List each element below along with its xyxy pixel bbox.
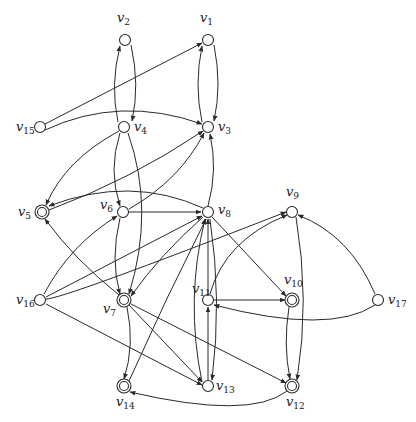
node-label-subscript: 6 (107, 204, 113, 214)
edge-v2-to-v4 (131, 45, 136, 121)
edge-v16-to-v9 (46, 212, 286, 299)
node-label-v16: v16 (16, 292, 35, 309)
inner-ring (120, 382, 129, 391)
state-circle (287, 207, 298, 218)
state-circle (119, 122, 130, 133)
edge-v10-to-v12 (286, 307, 290, 379)
edge-v17-to-v9 (298, 215, 375, 294)
node-v16 (35, 295, 46, 306)
node-v10 (285, 293, 299, 307)
node-label-subscript: 7 (110, 308, 116, 318)
node-label-v7: v7 (103, 301, 116, 318)
state-circle (118, 207, 129, 218)
node-label-v2: v2 (117, 10, 130, 27)
edge-v8-to-v10 (212, 217, 286, 296)
inner-ring (288, 382, 297, 391)
state-circle (373, 295, 384, 306)
state-circle (35, 122, 46, 133)
edge-v1-to-v3 (214, 45, 218, 121)
node-label-v17: v17 (388, 292, 407, 309)
node-label-subscript: 3 (225, 126, 231, 136)
node-label-subscript: 14 (123, 401, 135, 411)
graph-canvas: v1v2v3v4v5v6v7v8v9v10v11v12v13v14v15v16v… (0, 0, 416, 422)
node-v12 (285, 379, 299, 393)
state-circle (203, 381, 214, 392)
edge-layer (44, 43, 375, 406)
edge-v17-to-v11 (214, 305, 375, 320)
node-v7 (117, 293, 131, 307)
edge-v6-to-v3 (129, 133, 204, 209)
node-label-subscript: 1 (207, 17, 213, 27)
node-label-v8: v8 (218, 202, 231, 219)
edge-v4-to-v2 (114, 46, 120, 122)
inner-ring (288, 296, 297, 305)
edge-v12-to-v14 (130, 391, 287, 406)
node-label-v13: v13 (216, 378, 235, 395)
edge-v3-to-v1 (198, 46, 202, 122)
state-circle (203, 122, 214, 133)
state-circle (35, 295, 46, 306)
state-circle (203, 207, 214, 218)
edge-v6-to-v7 (115, 218, 120, 294)
state-graph-diagram: v1v2v3v4v5v6v7v8v9v10v11v12v13v14v15v16v… (0, 0, 416, 422)
edge-v7-to-v13 (129, 305, 202, 382)
node-label-v1: v1 (200, 10, 213, 27)
node-label-subscript: 15 (23, 126, 35, 136)
edge-v8-to-v5 (49, 191, 203, 208)
node-label-subscript: 13 (223, 385, 235, 395)
node-label-v12: v12 (286, 394, 305, 411)
node-label-v9: v9 (286, 184, 299, 201)
state-circle (203, 35, 214, 46)
node-label-v10: v10 (284, 272, 303, 289)
node-v14 (117, 379, 131, 393)
node-v2 (120, 35, 131, 46)
node-label-v4: v4 (134, 119, 147, 136)
edge-v15-to-v1 (45, 43, 202, 124)
inner-ring (38, 208, 47, 217)
inner-ring (120, 296, 129, 305)
node-label-subscript: 10 (291, 279, 303, 289)
node-label-subscript: 11 (199, 288, 210, 298)
edge-v16-to-v6 (44, 216, 117, 294)
edge-v4-to-v6 (114, 133, 120, 206)
node-label-v6: v6 (100, 197, 113, 214)
node-v9 (287, 207, 298, 218)
node-label-v3: v3 (218, 119, 231, 136)
edge-v7-to-v14 (124, 307, 130, 379)
node-label-subscript: 8 (225, 209, 231, 219)
node-label-subscript: 2 (124, 17, 130, 27)
node-v8 (203, 207, 214, 218)
node-label-v14: v14 (116, 394, 135, 411)
node-v13 (203, 381, 214, 392)
node-label-subscript: 9 (293, 191, 299, 201)
node-label-subscript: 5 (25, 211, 31, 221)
node-v15 (35, 122, 46, 133)
node-v17 (373, 295, 384, 306)
edge-v4-to-v5 (46, 131, 119, 205)
node-v5 (35, 205, 49, 219)
edge-v16-to-v13 (46, 304, 202, 385)
node-label-subscript: 4 (141, 126, 147, 136)
edge-v7-to-v5 (45, 219, 119, 295)
node-v1 (203, 35, 214, 46)
state-circle (120, 35, 131, 46)
node-label-v5: v5 (18, 204, 31, 221)
node-layer (35, 35, 384, 394)
node-v4 (119, 122, 130, 133)
edge-v8-to-v3 (208, 134, 214, 206)
node-label-subscript: 12 (293, 401, 304, 411)
node-label-subscript: 17 (395, 299, 407, 309)
node-v3 (203, 122, 214, 133)
node-label-subscript: 16 (23, 299, 35, 309)
node-v6 (118, 207, 129, 218)
node-label-v15: v15 (16, 119, 35, 136)
